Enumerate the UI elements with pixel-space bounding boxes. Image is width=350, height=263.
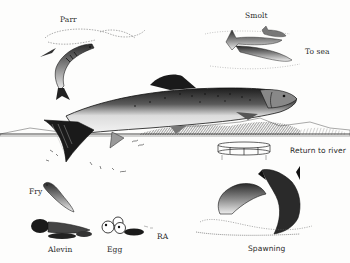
label-to-sea: To sea [305,47,330,56]
salmon-life-cycle-diagram: Parr Smolt To sea Return to river Fry Al… [0,0,350,263]
eggs [102,217,153,236]
spawning-salmon [196,166,312,235]
smolt-fish [205,26,300,69]
label-return-to-river: Return to river [290,146,346,155]
label-fry: Fry [29,187,42,196]
label-spawning: Spawning [248,244,285,253]
artist-signature: RA [157,232,168,241]
label-alevin: Alevin [48,245,72,254]
parr-fish [55,44,94,100]
label-parr: Parr [60,15,77,24]
parr-small-fish [40,48,56,57]
label-egg: Egg [107,245,122,254]
fish-cage [218,142,270,160]
fry-fish [43,182,74,212]
illustration [0,0,350,263]
label-smolt: Smolt [245,11,268,20]
parr-water-swirl [45,29,145,44]
alevin-gravel [31,219,92,239]
